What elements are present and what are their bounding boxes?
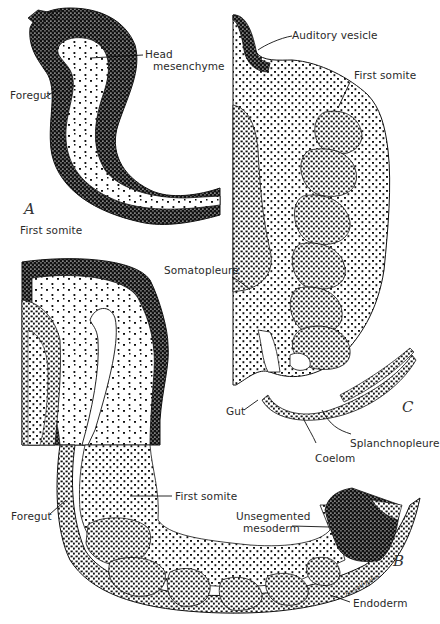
panel-label-a: A bbox=[24, 200, 35, 218]
label-splanchnopleure: Splanchnopleure bbox=[350, 437, 440, 449]
label-unsegmented-mesoderm-line2: mesoderm bbox=[243, 522, 300, 534]
label-foregut-a: Foregut bbox=[10, 89, 51, 101]
panel-label-c: C bbox=[402, 398, 413, 416]
label-endoderm: Endoderm bbox=[353, 597, 408, 609]
panel-label-b: B bbox=[393, 552, 404, 570]
label-first-somite-a: First somite bbox=[20, 224, 82, 236]
label-gut: Gut bbox=[226, 405, 245, 417]
label-first-somite-b: First somite bbox=[175, 490, 237, 502]
label-foregut-b: Foregut bbox=[11, 510, 52, 522]
label-auditory-vesicle: Auditory vesicle bbox=[292, 29, 378, 41]
label-coelom: Coelom bbox=[315, 452, 355, 464]
label-unsegmented-mesoderm-line1: Unsegmented bbox=[236, 510, 311, 522]
label-somatopleure: Somatopleure bbox=[164, 264, 239, 276]
label-head-mesenchyme-line1: Head bbox=[145, 48, 173, 60]
label-first-somite-c: First somite bbox=[354, 69, 416, 81]
panel-a-section bbox=[28, 8, 220, 224]
label-head-mesenchyme-line2: mesenchyme bbox=[153, 60, 225, 72]
